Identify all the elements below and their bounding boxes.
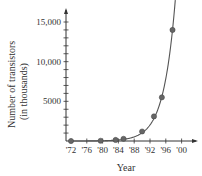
data-point-marker — [68, 138, 73, 143]
x-tick-label: '84 — [113, 145, 124, 155]
x-axis-arrow-icon — [192, 139, 198, 143]
x-tick-label: '72 — [66, 145, 77, 155]
x-tick-label: '80 — [97, 145, 108, 155]
data-point-marker — [170, 27, 175, 32]
y-axis-sublabel: (in thousands) — [18, 63, 30, 120]
y-axis-label: Number of transistors — [6, 41, 17, 128]
data-point-marker — [121, 136, 126, 141]
data-point-marker — [113, 137, 118, 142]
y-tick-label: 5000 — [43, 96, 62, 106]
trend-curve — [71, 0, 176, 141]
transistor-growth-chart: Number of transistors (in thousands) Yea… — [0, 0, 202, 176]
data-point-marker — [151, 114, 156, 119]
y-tick-label: 10,000 — [36, 57, 61, 67]
x-tick-label: '76 — [81, 145, 92, 155]
data-point-marker — [159, 95, 164, 100]
x-tick-label: '00 — [176, 145, 187, 155]
data-point-marker — [98, 138, 103, 143]
x-tick-label: '88 — [129, 145, 140, 155]
y-axis-title: Number of transistors (in thousands) — [6, 41, 30, 128]
y-tick-label: 15,000 — [36, 17, 61, 27]
x-axis-label: Year — [117, 162, 136, 173]
y-axis-arrow-icon — [64, 8, 68, 14]
data-point-marker — [140, 129, 145, 134]
x-tick-label: '96 — [160, 145, 171, 155]
plot-area — [68, 0, 175, 144]
x-tick-label: '92 — [145, 145, 156, 155]
